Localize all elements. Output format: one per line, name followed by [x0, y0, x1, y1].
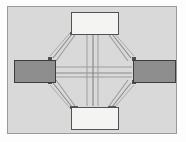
node-right-label: [134, 61, 175, 82]
link-top-left: [50, 33, 75, 61]
link-top-bottom: [87, 35, 98, 106]
diagram-canvas: [7, 6, 177, 134]
link-bottom-right: [109, 80, 134, 108]
link-left-right: [52, 67, 132, 77]
node-top-label: [72, 13, 118, 34]
node-bottom[interactable]: [71, 107, 119, 130]
link-bottom-left: [50, 80, 75, 108]
topology-figure: [0, 0, 186, 142]
link-top-right: [109, 33, 134, 61]
node-top[interactable]: [71, 12, 119, 35]
node-left[interactable]: [14, 60, 56, 83]
node-bottom-label: [72, 108, 118, 129]
node-right[interactable]: [133, 60, 176, 83]
node-left-label: [15, 61, 55, 82]
